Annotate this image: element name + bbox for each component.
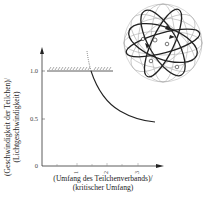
y-tick-0.5: 0.5	[30, 115, 38, 122]
light-speed-limit-line	[47, 67, 113, 71]
x-axis-label-line2: (kritischer Umfang)	[38, 183, 168, 192]
x-axis-arrow-icon	[156, 164, 164, 168]
y-axis-label-line1: (Geschwindigkeit der Teilchen)/	[3, 78, 12, 176]
y-tick-0: 0	[35, 162, 38, 169]
curve-solid	[91, 71, 155, 122]
y-axis-label: (Geschwindigkeit der Teilchen)/ (Lichtge…	[2, 62, 22, 192]
orbit-sphere-illustration	[122, 4, 205, 82]
y-tick-1.0: 1.0	[30, 67, 38, 74]
x-axis-label-line1: (Umfang des Teilchenverbands)/	[38, 174, 168, 183]
y-axis-arrow-icon	[40, 47, 44, 54]
figure: 1.0 0.5 0 1 2 3	[0, 0, 207, 201]
curve-dotted	[87, 51, 91, 71]
chart-svg: 1.0 0.5 0 1 2 3	[0, 0, 207, 201]
y-axis-label-line2: (Lichtgeschwindigkeit)	[12, 78, 21, 176]
x-axis-label: (Umfang des Teilchenverbands)/ (kritisch…	[38, 174, 168, 192]
